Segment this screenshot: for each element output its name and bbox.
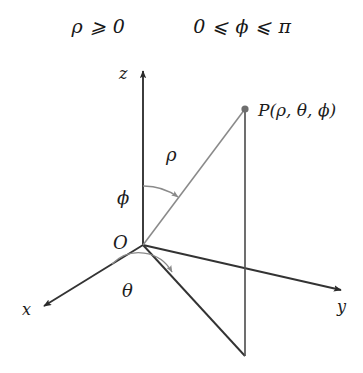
rho-label: ρ: [165, 144, 177, 165]
phi-angle-label: ϕ: [117, 187, 129, 208]
y-axis: [143, 245, 341, 290]
z-axis-label: z: [118, 64, 128, 83]
theta-angle-label: θ: [122, 280, 133, 301]
origin-label: O: [113, 232, 128, 253]
point-p-dot: [241, 105, 248, 112]
rho-ray: [143, 109, 245, 245]
y-axis-label: y: [336, 297, 347, 316]
x-axis-label: x: [22, 300, 31, 319]
coordinate-diagram: z x y O ρ P(ρ, θ, ϕ) ϕ θ: [0, 0, 363, 373]
xy-projection-line: [143, 245, 245, 356]
spherical-coordinates-figure: ρ ⩾ 0 0 ⩽ ϕ ⩽ π z x y O ρ: [0, 0, 363, 373]
theta-angle-arc: [112, 253, 172, 272]
phi-angle-arc: [143, 186, 178, 197]
point-p-label: P(ρ, θ, ϕ): [257, 100, 336, 120]
